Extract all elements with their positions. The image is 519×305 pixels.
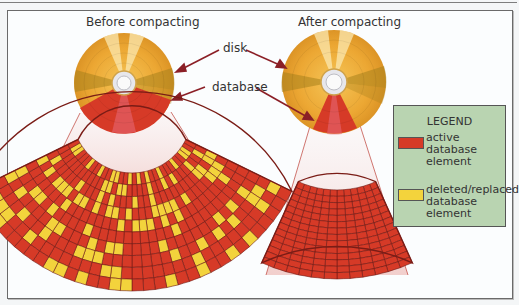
legend-swatch-active: [398, 137, 424, 149]
legend-label-deleted: deleted/replaced database element: [426, 184, 519, 220]
legend-item-active: active database element: [398, 132, 477, 168]
legend-title: LEGEND: [394, 115, 505, 128]
disk-before: [74, 33, 174, 134]
legend-label-active: active database element: [426, 132, 477, 168]
legend-swatch-deleted: [398, 189, 424, 201]
callout-disk-label: disk: [223, 41, 247, 55]
legend-item-deleted: deleted/replaced database element: [398, 184, 519, 220]
title-after-compacting: After compacting: [298, 15, 401, 29]
legend-box: LEGEND active database element deleted/r…: [393, 105, 506, 227]
disk-after: [281, 30, 386, 135]
callout-database-label: database: [212, 80, 268, 94]
title-before-compacting: Before compacting: [86, 15, 200, 29]
